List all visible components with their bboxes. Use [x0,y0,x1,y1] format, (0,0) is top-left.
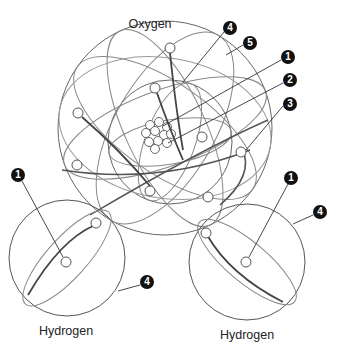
oxygen-nucleus [142,118,176,154]
electron [72,160,82,170]
callout-badge-oxygen-4: 4 [223,21,237,35]
electron [197,132,207,142]
callout-badge-oxygen-2: 2 [283,73,297,87]
oxygen-label: Oxygen [128,17,171,31]
electron [203,192,213,202]
electron [236,147,246,157]
hydrogen-right-atom [187,204,308,320]
hydrogen-right-label: Hydrogen [220,328,274,342]
hydrogen-left-atom [9,199,125,318]
callout-badge-hydrogen-right-1: 1 [284,171,298,185]
hydrogen-right-nucleus [241,257,251,267]
hydrogen-left-label: Hydrogen [39,324,93,338]
electron [91,218,101,228]
hydrogen-left-nucleus [61,257,71,267]
callout-badge-oxygen-3: 3 [283,97,297,111]
electron [73,108,83,118]
callout-badge-oxygen-5: 5 [243,36,257,50]
callout-badge-oxygen-1: 1 [281,50,295,64]
electron [145,186,155,196]
electron [150,83,160,93]
electron [165,43,175,53]
callout-badge-hydrogen-left-4: 4 [140,275,154,289]
callout-badge-hydrogen-left-1: 1 [11,168,25,182]
callout-badge-hydrogen-right-4: 4 [313,205,327,219]
callout-lines [22,32,313,291]
electron [201,228,211,238]
